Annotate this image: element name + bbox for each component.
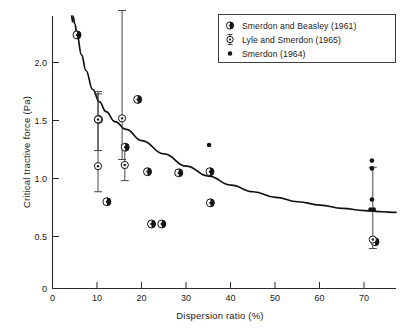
marker-open-circle: [118, 115, 125, 122]
marker-small-filled-dot: [370, 197, 375, 202]
y-tick-label-2_0: 2.0: [34, 58, 47, 68]
y-tick-label-1_0: 1.0: [34, 174, 47, 184]
series-points: [94, 115, 376, 243]
y-axis-title: Critical tractive force (Pa): [21, 96, 32, 208]
marker-open-circle: [94, 163, 101, 170]
legend: Smerdon and Beasley (1961) Lyle and Smer…: [219, 15, 396, 63]
marker-half-filled-circle: [206, 199, 214, 207]
legend-label-1: Lyle and Smerdon (1965): [242, 35, 341, 45]
error-bar: [94, 94, 102, 192]
chart-figure: 0 0.5 1.0 1.5 2.0 0 10 20 30 40 50 60 70: [0, 0, 418, 330]
marker-half-filled-circle: [158, 220, 166, 228]
marker-small-filled-dot: [207, 143, 212, 148]
marker-half-filled-circle: [73, 31, 81, 39]
marker-small-filled-dot: [370, 166, 375, 171]
marker-half-filled-circle: [134, 95, 142, 103]
y-axis-tick-labels: 0 0.5 1.0 1.5 2.0: [34, 58, 47, 294]
marker-open-circle: [121, 161, 128, 168]
x-axis-ticks: [53, 282, 365, 289]
y-tick-label-0: 0: [42, 284, 47, 294]
x-tick-label-60: 60: [314, 293, 324, 303]
x-tick-label-0: 0: [50, 293, 55, 303]
marker-small-filled-dot: [370, 158, 375, 163]
x-tick-label-40: 40: [225, 293, 235, 303]
error-bar: [118, 10, 126, 159]
marker-small-filled-dot: [371, 207, 376, 212]
marker-small-filled-dot: [228, 51, 233, 56]
marker-half-filled-circle: [103, 198, 111, 206]
marker-half-filled-circle: [121, 143, 129, 151]
marker-half-filled-circle: [175, 169, 183, 177]
x-axis-title: Dispersion ratio (%): [176, 310, 263, 321]
x-tick-label-10: 10: [92, 293, 102, 303]
marker-half-filled-circle: [226, 22, 233, 29]
y-axis-ticks: [53, 63, 60, 289]
x-tick-label-20: 20: [136, 293, 146, 303]
y-tick-label-1_5: 1.5: [34, 116, 47, 126]
marker-open-circle: [94, 116, 101, 123]
y-tick-label-0_5: 0.5: [34, 232, 47, 242]
scatter-plot: 0 0.5 1.0 1.5 2.0 0 10 20 30 40 50 60 70: [0, 0, 418, 330]
x-tick-label-50: 50: [270, 293, 280, 303]
data-points-layer: [73, 31, 379, 246]
marker-half-filled-circle: [148, 220, 156, 228]
x-tick-label-30: 30: [181, 293, 191, 303]
legend-label-0: Smerdon and Beasley (1961): [242, 21, 356, 31]
x-tick-label-70: 70: [359, 293, 369, 303]
x-axis-tick-labels: 0 10 20 30 40 50 60 70: [50, 293, 369, 303]
marker-half-filled-circle: [206, 168, 214, 176]
curve-dashed-head: [72, 16, 73, 22]
marker-open-circle: [227, 36, 233, 42]
series-points: [73, 31, 379, 246]
legend-label-2: Smerdon (1964): [242, 49, 306, 59]
marker-half-filled-circle: [144, 168, 152, 176]
marker-open-circle: [369, 236, 376, 243]
